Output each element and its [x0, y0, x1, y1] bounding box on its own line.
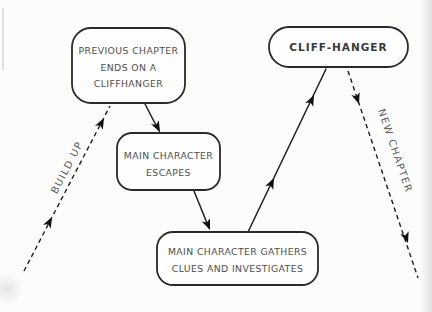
- node-cliff-hanger-label: CLIFF-HANGER: [289, 41, 387, 53]
- build-up-dashed-line: [24, 106, 110, 271]
- arrowhead-icon: [43, 215, 56, 229]
- story-structure-diagram: BUILD UP NEW CHAPTER PREVIOUS C: [0, 0, 432, 312]
- scan-edge-shadow-right: [420, 0, 432, 312]
- node-previous-chapter: PREVIOUS CHAPTER ENDS ON A CLIFFHANGER: [72, 28, 185, 103]
- arrow-new-chapter: NEW CHAPTER: [348, 71, 418, 278]
- node-previous-chapter-line: CLIFFHANGER: [94, 78, 163, 89]
- node-main-character-escapes-box: [117, 133, 220, 190]
- arrowhead-icon: [151, 120, 164, 134]
- arrowhead-icon: [305, 93, 318, 107]
- node-gathers-clues-line: CLUES AND INVESTIGATES: [172, 263, 304, 274]
- node-gathers-clues-line: MAIN CHARACTER GATHERS: [168, 246, 307, 257]
- arrow-rise-1: [248, 69, 326, 232]
- arrowhead-icon: [400, 231, 412, 244]
- node-main-character-escapes: MAIN CHARACTER ESCAPES: [117, 133, 220, 190]
- scan-smudge-bottom-left: [0, 272, 24, 306]
- rise-1-line: [248, 69, 326, 232]
- arrow-drop-2: [194, 191, 214, 232]
- arrowhead-icon: [351, 92, 363, 105]
- arrowhead-icon: [265, 176, 278, 190]
- scan-edge-line-left: [2, 8, 4, 70]
- arrowhead-icon: [202, 218, 214, 232]
- node-gathers-clues-box: [157, 232, 318, 285]
- node-main-character-escapes-line: ESCAPES: [146, 167, 191, 178]
- node-gathers-clues: MAIN CHARACTER GATHERS CLUES AND INVESTI…: [157, 232, 318, 285]
- arrowhead-icon: [95, 116, 108, 130]
- node-main-character-escapes-line: MAIN CHARACTER: [124, 150, 213, 161]
- node-previous-chapter-line: PREVIOUS CHAPTER: [79, 45, 179, 56]
- edge-label-new-chapter: NEW CHAPTER: [376, 107, 415, 194]
- diagram-canvas: BUILD UP NEW CHAPTER PREVIOUS C: [0, 0, 432, 312]
- node-previous-chapter-line: ENDS ON A: [100, 62, 156, 73]
- arrow-build-up: BUILD UP: [24, 106, 110, 271]
- edge-label-build-up: BUILD UP: [49, 139, 85, 195]
- node-cliff-hanger: CLIFF-HANGER: [269, 27, 408, 67]
- arrow-drop-1: [145, 104, 164, 134]
